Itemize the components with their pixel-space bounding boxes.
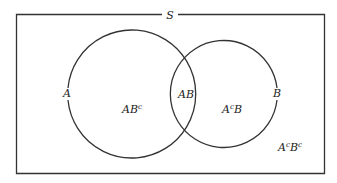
region-intersection: AB — [177, 88, 194, 101]
set-b-label: B — [272, 87, 281, 100]
universe-label: S — [166, 9, 174, 22]
region-neither: AcBc — [277, 141, 302, 154]
venn-diagram: S A B ABc AB AcB AcBc — [0, 0, 337, 183]
set-a-label: A — [62, 87, 71, 100]
region-b-only: AcB — [221, 103, 242, 116]
region-a-only: ABc — [121, 103, 142, 116]
circle-a — [68, 30, 196, 158]
